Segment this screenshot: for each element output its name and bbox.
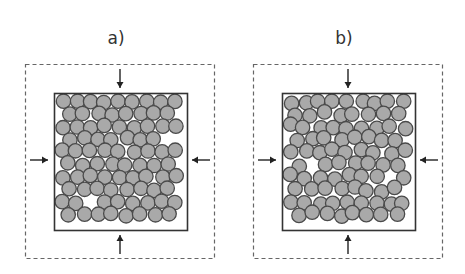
particle: [362, 129, 376, 143]
arrow-left-icon: [420, 157, 438, 164]
particle: [300, 144, 314, 158]
particle: [62, 182, 76, 196]
particle: [90, 181, 104, 195]
particle: [359, 207, 373, 221]
particle: [61, 208, 75, 222]
particle: [146, 106, 160, 120]
arrow-left-icon: [192, 157, 210, 164]
arrow-right-icon: [30, 157, 48, 164]
panel-a-diagram: [0, 0, 232, 274]
particle: [104, 206, 118, 220]
particle: [162, 207, 176, 221]
particle: [345, 107, 359, 121]
arrow-down-icon: [345, 69, 352, 88]
arrow-up-icon: [345, 235, 352, 254]
particle: [305, 205, 319, 219]
particle: [392, 106, 406, 120]
particle: [374, 133, 388, 147]
particle: [82, 143, 96, 157]
particle: [305, 182, 319, 196]
particle: [370, 169, 384, 183]
particle: [361, 107, 375, 121]
particle: [160, 106, 174, 120]
particle: [320, 206, 334, 220]
particle: [148, 208, 162, 222]
particle: [335, 181, 349, 195]
particle: [398, 143, 412, 157]
particle: [283, 167, 297, 181]
arrow-right-icon: [258, 157, 276, 164]
particle: [83, 168, 97, 182]
particle: [154, 194, 168, 208]
particle: [55, 194, 69, 208]
particle: [284, 195, 298, 209]
particle: [97, 118, 111, 132]
particle: [77, 207, 91, 221]
particle: [332, 155, 346, 169]
particles: [55, 94, 183, 223]
particle: [318, 157, 332, 171]
particle: [295, 120, 309, 134]
particle: [141, 144, 155, 158]
particle: [390, 207, 404, 221]
arrow-up-icon: [117, 235, 124, 254]
particle: [288, 182, 302, 196]
particle: [132, 207, 146, 221]
particle: [169, 169, 183, 183]
particle: [398, 122, 412, 136]
panel-a: a): [0, 0, 232, 274]
particle: [160, 181, 174, 195]
particle: [120, 130, 134, 144]
particle: [345, 205, 359, 219]
particle: [382, 119, 396, 133]
particle: [134, 181, 148, 195]
panel-b: b): [228, 0, 460, 274]
panel-b-diagram: [228, 0, 460, 274]
particle: [127, 145, 141, 159]
particle: [317, 105, 331, 119]
particle: [325, 142, 339, 156]
particle: [119, 106, 133, 120]
particle: [75, 106, 89, 120]
arrow-down-icon: [117, 69, 124, 88]
particle: [292, 208, 306, 222]
particle: [284, 145, 298, 159]
particle: [318, 181, 332, 195]
particle: [374, 207, 388, 221]
particle: [169, 119, 183, 133]
particle: [120, 182, 134, 196]
particle: [339, 94, 353, 108]
particle: [168, 143, 182, 157]
particle: [156, 119, 170, 133]
particle: [361, 156, 375, 170]
particle: [119, 209, 133, 223]
particles: [283, 94, 413, 223]
particle: [61, 156, 75, 170]
particle: [387, 180, 401, 194]
particle: [56, 94, 70, 108]
